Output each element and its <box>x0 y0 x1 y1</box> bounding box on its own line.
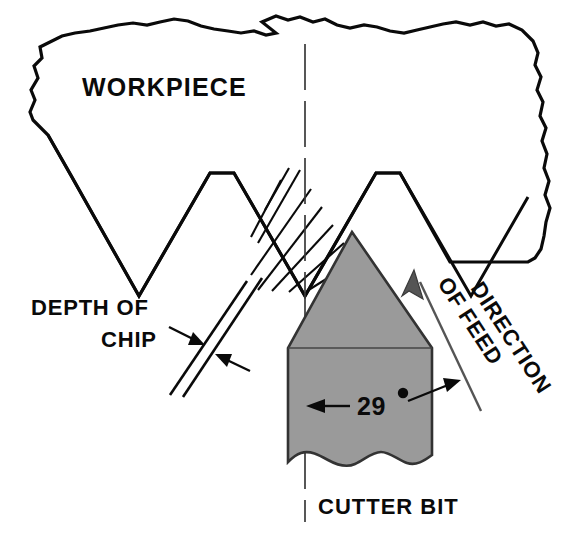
degree-symbol-icon <box>398 388 408 398</box>
cutter-bit-group <box>288 232 432 466</box>
thread-profile-group <box>48 135 528 296</box>
label-workpiece: WORKPIECE <box>82 73 247 101</box>
workpiece-outline <box>30 16 550 296</box>
depth-lower-arrow-shaft <box>227 360 250 371</box>
workpiece-outline-group <box>30 16 550 296</box>
label-angle-value: 29 <box>357 392 386 420</box>
depth-upper-arrow-shaft <box>169 327 193 339</box>
label-direction-of-feed-group: DIRECTION OF FEED <box>433 259 557 412</box>
label-depth-of-chip-line1: DEPTH OF <box>31 295 149 320</box>
label-direction-line2: OF <box>433 272 471 313</box>
label-depth-of-chip-line2: CHIP <box>101 327 157 352</box>
thread-v-profile <box>48 135 528 296</box>
hatch-line-2 <box>258 170 300 243</box>
angle-right-arrow-head <box>443 378 461 392</box>
depth-lower-arrow-head <box>215 354 232 367</box>
feed-arrow-head <box>402 270 423 299</box>
cutter-bit-body <box>288 232 432 466</box>
thread-cutting-diagram: WORKPIECE DEPTH OF CHIP 29 CUTTER BIT DI… <box>0 0 577 539</box>
depth-of-chip-lines <box>170 278 262 397</box>
chip-depth-line-outer <box>170 281 247 395</box>
label-cutter-bit: CUTTER BIT <box>318 494 459 519</box>
depth-annotation-arrows <box>169 327 250 371</box>
diagram-canvas: WORKPIECE DEPTH OF CHIP 29 CUTTER BIT DI… <box>0 0 577 539</box>
depth-upper-arrow-head <box>188 332 205 345</box>
